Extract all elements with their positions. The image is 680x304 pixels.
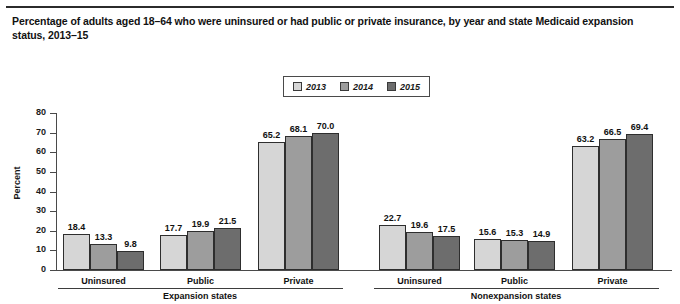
chart-figure: Percentage of adults aged 18–64 who were… <box>0 0 680 304</box>
y-tick-mark <box>50 152 56 153</box>
bar-value-label: 69.4 <box>621 122 658 132</box>
bar[interactable] <box>312 133 339 270</box>
y-tick-label: 30 <box>22 206 46 215</box>
bar[interactable] <box>117 251 144 270</box>
y-tick-label: 70 <box>22 128 46 137</box>
y-tick-label: 60 <box>22 147 46 156</box>
panel-divider <box>374 288 659 289</box>
bar[interactable] <box>474 239 501 270</box>
bar[interactable] <box>626 134 653 270</box>
bar-value-label: 17.5 <box>428 224 465 234</box>
plot-area: Percent 01020304050607080 18.413.39.817.… <box>0 0 680 304</box>
y-axis-title: Percent <box>12 157 22 209</box>
bar[interactable] <box>433 236 460 270</box>
y-axis-line <box>56 113 57 271</box>
bar-value-label: 14.9 <box>523 229 560 239</box>
category-label: Uninsured <box>375 276 465 286</box>
y-tick-mark <box>50 211 56 212</box>
y-tick-label: 80 <box>22 108 46 117</box>
bar-value-label: 18.4 <box>58 222 95 232</box>
y-tick-mark <box>50 192 56 193</box>
x-axis-baseline <box>56 270 672 271</box>
y-tick-mark <box>50 250 56 251</box>
y-tick-label: 40 <box>22 187 46 196</box>
bar-value-label: 21.5 <box>209 216 246 226</box>
panel-label: Nonexpansion states <box>436 291 596 301</box>
bar[interactable] <box>214 228 241 270</box>
bar[interactable] <box>285 136 312 270</box>
bar-value-label: 70.0 <box>307 121 344 131</box>
y-tick-mark <box>50 270 56 271</box>
bar[interactable] <box>599 139 626 270</box>
bar[interactable] <box>258 142 285 270</box>
y-tick-mark <box>50 172 56 173</box>
category-label: Public <box>470 276 560 286</box>
bar[interactable] <box>379 225 406 270</box>
y-tick-mark <box>50 133 56 134</box>
category-label: Private <box>568 276 658 286</box>
y-tick-label: 20 <box>22 226 46 235</box>
bar[interactable] <box>501 240 528 270</box>
bar[interactable] <box>406 232 433 270</box>
category-label: Public <box>156 276 246 286</box>
bar[interactable] <box>187 231 214 270</box>
y-tick-label: 10 <box>22 245 46 254</box>
y-tick-label: 50 <box>22 167 46 176</box>
bar[interactable] <box>572 146 599 270</box>
bar[interactable] <box>160 235 187 270</box>
bar-value-label: 9.8 <box>112 239 149 249</box>
y-tick-label: 0 <box>22 265 46 274</box>
panel-label: Expansion states <box>120 291 280 301</box>
panel-divider <box>58 288 343 289</box>
category-label: Uninsured <box>59 276 149 286</box>
y-tick-mark <box>50 231 56 232</box>
y-tick-mark <box>50 113 56 114</box>
bar[interactable] <box>528 241 555 270</box>
category-label: Private <box>254 276 344 286</box>
